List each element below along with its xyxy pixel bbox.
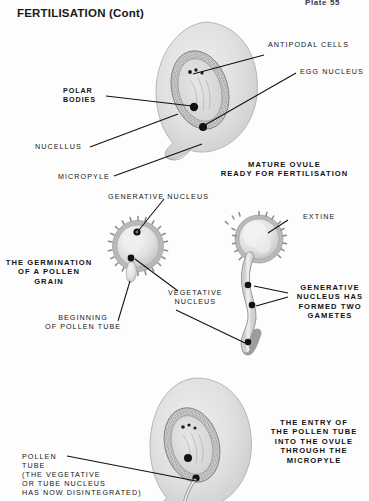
label-generative-nucleus: GENERATIVE NUCLEUS	[108, 192, 209, 201]
plate-page: Plate 55 FERTILISATION (Cont) ANTIPODAL …	[0, 0, 369, 501]
label-antipodal-cells: ANTIPODAL CELLS	[268, 40, 349, 49]
tube-tip-nucleus-marker	[245, 339, 251, 345]
caption-mature-ovule: MATURE OVULE READY FOR FERTILISATION	[207, 160, 362, 179]
exine-spikes-left	[108, 216, 167, 275]
vegetative-nucleus-marker	[128, 255, 135, 262]
ovule-figure-top	[90, 22, 296, 176]
label-extine: EXTINE	[303, 212, 335, 221]
polar-bodies-marker	[190, 103, 198, 111]
label-polar-bodies: POLAR BODIES	[63, 86, 96, 104]
label-beginning-of-pollen-tube: BEGINNING OF POLLEN TUBE	[45, 313, 121, 331]
plate-number: Plate 55	[305, 0, 340, 7]
caption-generative-nucleus-gametes: GENERATIVE NUCLEUS HAS FORMED TWO GAMETE…	[288, 283, 369, 321]
label-vegetative-nucleus: VEGETATIVE NUCLEUS	[168, 288, 223, 306]
page-title: FERTILISATION (Cont)	[17, 7, 144, 19]
gamete-two-marker	[249, 302, 256, 309]
exine-spikes-right	[226, 212, 287, 264]
caption-pollen-tube-entry: THE ENTRY OF THE POLLEN TUBE INTO THE OV…	[262, 418, 366, 465]
label-nucellus: NUCELLUS	[35, 142, 82, 151]
leader-lines-top	[90, 55, 296, 176]
leader-lines-tube	[176, 220, 288, 343]
label-micropyle: MICROPYLE	[58, 172, 110, 181]
label-pollen-tube: POLLEN TUBE (THE VEGETATIVE OR TUBE NUCL…	[22, 452, 142, 497]
caption-pollen-germination: THE GERMINATION OF A POLLEN GRAIN	[0, 258, 104, 286]
label-egg-nucleus: EGG NUCLEUS	[300, 67, 364, 76]
gamete-one-marker	[245, 282, 252, 289]
antipodal-cells-marker	[188, 68, 203, 74]
egg-nucleus-marker	[199, 123, 207, 131]
generative-nucleus-marker	[133, 228, 140, 235]
pollen-tube-figure	[176, 212, 288, 351]
